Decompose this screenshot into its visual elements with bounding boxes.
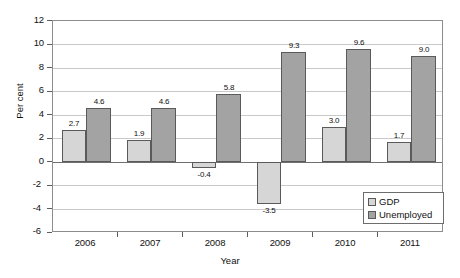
legend-label-gdp: GDP — [379, 197, 400, 207]
x-tick-label-2007: 2007 — [118, 238, 182, 248]
y-tick-label: 10 — [14, 38, 44, 48]
bar-gdp-2010 — [322, 127, 346, 162]
y-tick-mark — [47, 232, 52, 233]
legend-item-gdp: GDP — [368, 195, 443, 208]
x-tick-label-2008: 2008 — [183, 238, 247, 248]
bar-gdp-2006 — [62, 130, 86, 162]
bar-gdp-2011 — [387, 142, 411, 162]
x-tick-mark — [117, 232, 118, 237]
bar-gdp-2007 — [127, 140, 151, 162]
bar-chart: Per cent 12 10 8 6 4 2 0 -2 -4 -6 — [0, 0, 460, 278]
x-tick-label-2006: 2006 — [53, 238, 117, 248]
legend: GDP Unemployed — [363, 192, 444, 224]
bar-label-unemployed-2006: 4.6 — [79, 98, 119, 106]
bar-unemployed-2008 — [216, 94, 241, 162]
bar-label-unemployed-2011: 9.0 — [404, 46, 444, 54]
legend-swatch-unemployed-icon — [368, 211, 376, 219]
bar-label-unemployed-2007: 4.6 — [144, 98, 184, 106]
y-tick-label: -2 — [11, 179, 41, 189]
bar-gdp-2009 — [257, 162, 281, 204]
bar-label-gdp-2008: -0.4 — [184, 171, 224, 179]
bar-unemployed-2011 — [411, 56, 436, 162]
y-tick-label: -6 — [11, 226, 41, 236]
x-tick-mark — [182, 232, 183, 237]
zero-line — [53, 162, 442, 163]
bar-label-gdp-2009: -3.5 — [249, 207, 289, 215]
x-tick-label-2010: 2010 — [313, 238, 377, 248]
bar-unemployed-2010 — [346, 49, 371, 162]
x-tick-mark — [377, 232, 378, 237]
x-tick-mark — [312, 232, 313, 237]
gridline — [53, 185, 442, 186]
x-tick-mark — [247, 232, 248, 237]
gridline — [53, 68, 442, 69]
x-tick-label-2011: 2011 — [378, 238, 442, 248]
bar-label-gdp-2010: 3.0 — [314, 117, 354, 125]
y-tick-label: 4 — [14, 109, 44, 119]
bar-label-gdp-2011: 1.7 — [379, 132, 419, 140]
bar-unemployed-2009 — [281, 52, 306, 162]
gridline — [53, 44, 442, 45]
legend-item-unemployed: Unemployed — [368, 208, 443, 221]
bar-label-gdp-2007: 1.9 — [119, 130, 159, 138]
bar-label-unemployed-2008: 5.8 — [209, 84, 249, 92]
x-axis-title: Year — [0, 256, 460, 266]
bar-gdp-2008 — [192, 162, 216, 168]
plot-area: 2.7 4.6 1.9 4.6 -0.4 5.8 -3.5 9.3 3.0 9.… — [52, 20, 443, 232]
y-tick-label: 6 — [14, 85, 44, 95]
y-tick-label: 8 — [14, 62, 44, 72]
y-axis-title: Per cent — [15, 61, 25, 141]
y-tick-label: -4 — [11, 203, 41, 213]
bar-unemployed-2006 — [86, 108, 111, 162]
y-tick-label: 0 — [14, 156, 44, 166]
bar-label-unemployed-2009: 9.3 — [274, 42, 314, 50]
x-tick-label-2009: 2009 — [248, 238, 312, 248]
legend-swatch-gdp-icon — [368, 198, 376, 206]
bar-label-unemployed-2010: 9.6 — [339, 39, 379, 47]
y-tick-label: 12 — [14, 15, 44, 25]
bar-label-gdp-2006: 2.7 — [54, 120, 94, 128]
gridline — [53, 115, 442, 116]
y-tick-label: 2 — [14, 132, 44, 142]
legend-label-unemployed: Unemployed — [379, 210, 432, 220]
